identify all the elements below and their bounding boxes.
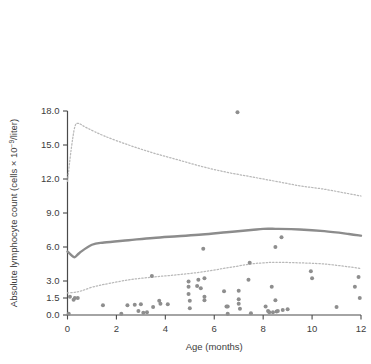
data-point [195, 284, 199, 288]
x-axis-title: Age (months) [186, 341, 243, 352]
data-point [226, 312, 230, 316]
data-point [141, 311, 145, 315]
data-point [145, 310, 149, 314]
x-tick-label: 10 [307, 323, 318, 334]
data-point [188, 299, 192, 303]
x-tick-label: 6 [212, 323, 217, 334]
data-point [276, 309, 280, 313]
data-point [201, 247, 205, 251]
y-tick-label: 9.0 [46, 207, 59, 218]
data-point [136, 309, 140, 313]
data-point [151, 305, 155, 309]
data-point [270, 285, 274, 289]
data-point [187, 285, 191, 289]
axis-spine [68, 111, 362, 315]
y-axis-title: Absolute lymphocyte count (cells × 10−9/… [8, 119, 19, 307]
scatter-plot: 0.01.53.06.09.012.015.018.0024681012Age … [0, 0, 371, 364]
data-point [202, 276, 206, 280]
y-tick-label: 3.0 [46, 275, 59, 286]
data-point [273, 298, 277, 302]
data-point [353, 285, 357, 289]
data-point [237, 297, 241, 301]
x-tick-label: 0 [65, 323, 70, 334]
data-point [68, 295, 72, 299]
data-point [76, 296, 80, 300]
data-point [246, 278, 250, 282]
reference-curves [68, 123, 362, 293]
data-point [309, 269, 313, 273]
data-point [119, 312, 123, 316]
data-point [237, 289, 241, 293]
x-tick-label: 12 [356, 323, 367, 334]
data-point [226, 305, 230, 309]
data-point [310, 276, 314, 280]
data-point [249, 311, 253, 315]
data-point [150, 274, 154, 278]
data-point [335, 305, 339, 309]
data-point [101, 303, 105, 307]
x-tick-label: 2 [114, 323, 119, 334]
data-point [188, 306, 192, 310]
data-point [67, 312, 71, 316]
x-tick-label: 8 [261, 323, 266, 334]
data-point [222, 289, 226, 293]
data-point [139, 302, 143, 306]
y-tick-label: 1.5 [46, 292, 59, 303]
data-point [264, 305, 268, 309]
y-tick-label: 15.0 [41, 139, 60, 150]
data-point [196, 278, 200, 282]
axes [63, 111, 361, 320]
data-point [125, 303, 129, 307]
data-point [202, 298, 206, 302]
data-point [238, 307, 242, 311]
data-point [271, 310, 275, 314]
data-point [267, 310, 271, 314]
data-point [357, 275, 361, 279]
y-tick-label: 18.0 [41, 105, 60, 116]
data-point [187, 280, 191, 284]
y-tick-label: 0.0 [46, 309, 59, 320]
data-point [158, 302, 162, 306]
data-point [199, 286, 203, 290]
curve-lower-reference-limit [68, 262, 362, 293]
data-point [187, 292, 191, 296]
data-points [67, 110, 362, 316]
data-point [286, 307, 290, 311]
data-point [273, 245, 277, 249]
curve-median [68, 229, 362, 257]
chart-figure: 0.01.53.06.09.012.015.018.0024681012Age … [0, 0, 371, 364]
data-point [358, 296, 362, 300]
data-point [237, 302, 241, 306]
y-tick-label: 12.0 [41, 173, 60, 184]
data-point [281, 308, 285, 312]
data-point [235, 110, 239, 114]
y-tick-label: 6.0 [46, 241, 59, 252]
curve-upper-reference-limit [68, 123, 362, 196]
data-point [248, 261, 252, 265]
data-point [280, 235, 284, 239]
data-point [166, 302, 170, 306]
data-point [133, 303, 137, 307]
x-tick-label: 4 [163, 323, 168, 334]
